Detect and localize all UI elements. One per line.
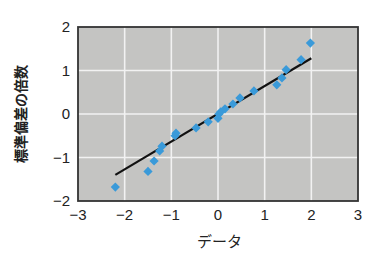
- y-tick-label: 1: [62, 62, 70, 79]
- y-axis-ticks: −2−1012: [53, 18, 70, 209]
- x-axis-label: データ: [197, 233, 242, 251]
- x-tick-label: 0: [214, 206, 222, 223]
- x-tick-label: −1: [163, 206, 180, 223]
- qq-plot-chart: −3−2−10123 −2−1012 データ 標準偏差の倍数: [0, 0, 379, 266]
- x-tick-label: 3: [354, 206, 362, 223]
- x-tick-label: 2: [307, 206, 315, 223]
- x-tick-label: 1: [260, 206, 268, 223]
- y-axis-label: 標準偏差の倍数: [13, 64, 29, 163]
- y-tick-label: 0: [62, 105, 70, 122]
- x-tick-label: −2: [116, 206, 133, 223]
- x-tick-label: −3: [69, 206, 86, 223]
- y-tick-label: 2: [62, 18, 70, 35]
- y-tick-label: −1: [53, 149, 70, 166]
- x-axis-ticks: −3−2−10123: [69, 206, 362, 223]
- y-tick-label: −2: [53, 192, 70, 209]
